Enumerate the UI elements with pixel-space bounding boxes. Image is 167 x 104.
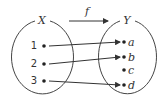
domain-point-1 [42, 44, 46, 48]
codomain-point-b [122, 55, 126, 59]
mapping-arrow-2-b [49, 57, 120, 64]
codomain-element-c: c [128, 64, 134, 77]
domain-element-3: 3 [31, 75, 37, 86]
set-x-label: X [37, 14, 47, 27]
set-y-label: Y [123, 14, 132, 27]
codomain-point-a [122, 40, 126, 44]
domain-element-1: 1 [31, 40, 37, 51]
codomain-element-b: b [128, 51, 135, 64]
mapping-arrow-1-a [49, 42, 120, 46]
codomain-point-c [122, 68, 126, 72]
codomain-element-a: a [128, 36, 135, 49]
codomain-element-d: d [128, 79, 135, 92]
mapping-diagram: X Y f 1 2 3 a b c d [0, 0, 167, 104]
mapping-arrow-3-d [49, 81, 120, 85]
function-label: f [84, 5, 91, 18]
set-x-ellipse [11, 21, 73, 94]
domain-element-2: 2 [31, 58, 37, 69]
domain-point-3 [42, 79, 46, 83]
domain-point-2 [42, 62, 46, 66]
codomain-point-d [122, 83, 126, 87]
